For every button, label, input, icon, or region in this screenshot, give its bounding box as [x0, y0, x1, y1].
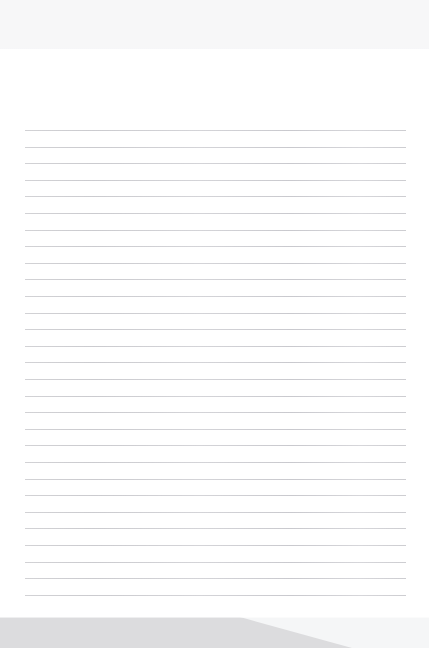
rule-line — [25, 412, 406, 413]
rule-line — [25, 246, 406, 247]
rule-line — [25, 346, 406, 347]
rule-line — [25, 296, 406, 297]
rule-line — [25, 313, 406, 314]
rule-line — [25, 396, 406, 397]
rule-line — [25, 495, 406, 496]
rule-line — [25, 163, 406, 164]
rule-line — [25, 429, 406, 430]
rule-line — [25, 479, 406, 480]
rule-line — [25, 462, 406, 463]
rule-line — [25, 180, 406, 181]
rule-line — [25, 147, 406, 148]
rule-line — [25, 379, 406, 380]
rule-line — [25, 362, 406, 363]
screenshot-canvas — [0, 0, 429, 648]
bottom-chrome-band — [0, 617, 429, 648]
rule-line — [25, 528, 406, 529]
bottom-band-diagonal-fill — [0, 617, 429, 648]
rule-line — [25, 445, 406, 446]
bottom-band-top-seam — [0, 617, 429, 618]
rule-line — [25, 329, 406, 330]
rule-line — [25, 562, 406, 563]
rule-line — [25, 230, 406, 231]
rule-line — [25, 213, 406, 214]
top-chrome-band — [0, 0, 429, 49]
ruled-line-set — [0, 49, 429, 617]
rule-line — [25, 263, 406, 264]
rule-line — [25, 512, 406, 513]
rule-line — [25, 595, 406, 596]
rule-line — [25, 279, 406, 280]
lined-paper-sheet[interactable] — [0, 49, 429, 617]
rule-line — [25, 545, 406, 546]
paper-foot-strip — [0, 600, 429, 617]
rule-line — [25, 130, 406, 131]
rule-line — [25, 196, 406, 197]
rule-line — [25, 578, 406, 579]
